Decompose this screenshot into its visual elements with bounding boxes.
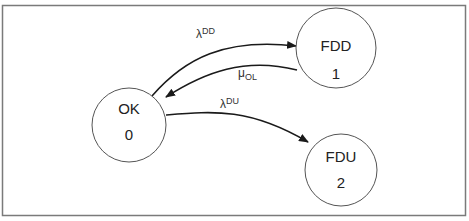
node-fdd-index: 1 (332, 65, 340, 82)
node-fdu-name: FDU (326, 148, 357, 165)
node-fdu-circle (305, 134, 377, 206)
node-fdu-index: 2 (337, 174, 345, 191)
state-diagram: λDD μOL λDU OK 0 FDD 1 FDU 2 (0, 0, 469, 221)
node-ok: OK 0 (92, 88, 166, 162)
node-ok-name: OK (118, 100, 140, 117)
diagram-frame (3, 6, 466, 216)
node-fdu: FDU 2 (305, 134, 377, 206)
node-fdd: FDD 1 (296, 8, 376, 88)
node-fdd-name: FDD (321, 37, 352, 54)
node-ok-index: 0 (125, 126, 133, 143)
